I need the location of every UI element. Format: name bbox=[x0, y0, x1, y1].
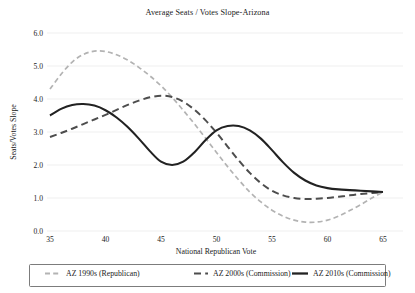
series-lines bbox=[50, 51, 383, 222]
y-tick-label: 3.0 bbox=[34, 128, 44, 137]
y-axis-tick-labels: 0.01.02.03.04.05.06.0 bbox=[34, 29, 44, 236]
x-tick-label: 55 bbox=[268, 235, 276, 244]
x-tick-label: 65 bbox=[379, 235, 387, 244]
legend: AZ 1990s (Republican)AZ 2000s (Commissio… bbox=[45, 269, 391, 278]
legend-label-1: AZ 1990s (Republican) bbox=[66, 269, 140, 278]
x-tick-label: 50 bbox=[213, 235, 221, 244]
y-tick-label: 2.0 bbox=[34, 161, 44, 170]
y-tick-label: 0.0 bbox=[34, 227, 44, 236]
y-tick-label: 5.0 bbox=[34, 62, 44, 71]
legend-label-3: AZ 2010s (Commission) bbox=[313, 269, 391, 278]
x-axis-title: National Republican Vote bbox=[176, 247, 257, 256]
y-tick-label: 4.0 bbox=[34, 95, 44, 104]
y-axis-title: Seats/Votes Slope bbox=[9, 104, 18, 160]
x-tick-label: 35 bbox=[46, 235, 54, 244]
series-line-3 bbox=[50, 104, 383, 192]
chart-plot-area: 0.01.02.03.04.05.06.0 35404550556065 Sea… bbox=[0, 0, 415, 293]
x-axis-tick-labels: 35404550556065 bbox=[46, 235, 387, 244]
y-tick-label: 6.0 bbox=[34, 29, 44, 38]
x-tick-label: 40 bbox=[102, 235, 110, 244]
series-line-2 bbox=[50, 96, 383, 199]
y-tick-label: 1.0 bbox=[34, 194, 44, 203]
gridlines bbox=[47, 33, 403, 231]
x-tick-label: 45 bbox=[157, 235, 165, 244]
legend-label-2: AZ 2000s (Commission) bbox=[213, 269, 291, 278]
x-tick-label: 60 bbox=[324, 235, 332, 244]
chart-container: Average Seats / Votes Slope-Arizona 0.01… bbox=[0, 0, 415, 293]
